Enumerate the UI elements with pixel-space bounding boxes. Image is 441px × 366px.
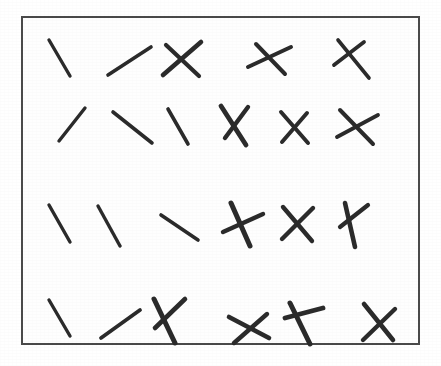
stroke-r4c2-1 (101, 310, 140, 338)
mark-r1c2 (108, 47, 151, 75)
mark-r4c6 (363, 304, 395, 340)
stroke-r3c2-1 (98, 206, 120, 246)
mark-r4c4 (229, 314, 269, 343)
stroke-r1c1-1 (49, 40, 70, 76)
mark-r4c3 (154, 299, 185, 343)
mark-r2c4 (221, 106, 248, 145)
mark-r2c5 (281, 112, 308, 143)
mark-r3c2 (98, 206, 120, 246)
mark-r4c2 (101, 310, 140, 338)
mark-r3c1 (49, 205, 70, 242)
mark-r1c5 (334, 40, 369, 78)
mark-r3c3 (161, 215, 198, 240)
stroke-r4c4-2 (234, 314, 267, 343)
mark-r1c4 (248, 44, 291, 74)
mark-r2c1 (59, 108, 85, 141)
mark-r4c5 (285, 303, 323, 344)
stroke-r3c3-1 (161, 215, 198, 240)
stroke-r1c4-2 (256, 44, 285, 74)
mark-r2c3 (168, 109, 188, 144)
stroke-r3c1-1 (49, 205, 70, 242)
stimulus-panel (21, 16, 420, 345)
stroke-r2c6-2 (337, 115, 378, 137)
mark-r3c6 (340, 203, 368, 247)
mark-r3c4 (223, 203, 263, 246)
figure-root (0, 0, 441, 366)
mark-r3c5 (282, 207, 313, 241)
stroke-r1c2-1 (108, 47, 151, 75)
stroke-r2c2-1 (113, 112, 152, 143)
stimulus-marks-canvas (23, 18, 422, 347)
mark-r4c1 (49, 300, 70, 336)
mark-r1c1 (49, 40, 70, 76)
stroke-r1c5-2 (334, 42, 364, 65)
stroke-r4c1-1 (49, 300, 70, 336)
mark-r1c3 (163, 42, 201, 76)
mark-r2c2 (113, 112, 152, 143)
stroke-r2c3-1 (168, 109, 188, 144)
marks-group (49, 40, 395, 344)
stroke-r3c6-1 (345, 203, 355, 247)
mark-r2c6 (337, 110, 378, 144)
stroke-r2c1-1 (59, 108, 85, 141)
stroke-r4c5-1 (290, 303, 310, 344)
